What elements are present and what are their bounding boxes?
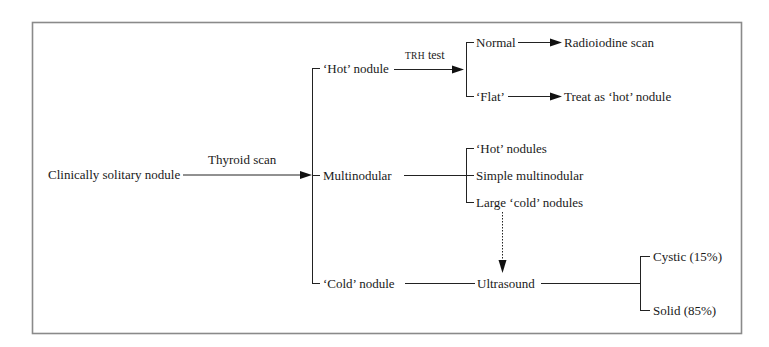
thyroid-nodule-flowchart: Clinically solitary nodule Thyroid scan … [0, 0, 769, 347]
node-cold-nodule: ‘Cold’ nodule [323, 276, 395, 291]
node-hot-nodules: ‘Hot’ nodules [476, 141, 547, 156]
edge-label-thyroid-scan: Thyroid scan [208, 152, 277, 167]
edge-label-trh-test: TRH test [405, 48, 445, 62]
node-treat-as-hot: Treat as ‘hot’ nodule [564, 89, 671, 104]
node-cystic: Cystic (15%) [653, 249, 722, 264]
node-large-cold-nodules: Large ‘cold’ nodules [476, 195, 583, 210]
node-solid: Solid (85%) [653, 303, 716, 318]
node-radioiodine-scan: Radioiodine scan [564, 35, 654, 50]
node-normal: Normal [476, 35, 516, 50]
node-hot-nodule: ‘Hot’ nodule [323, 61, 389, 76]
node-clinically-solitary-nodule: Clinically solitary nodule [48, 167, 180, 182]
node-simple-multinodular: Simple multinodular [476, 168, 584, 183]
node-flat: ‘Flat’ [476, 89, 505, 104]
node-ultrasound: Ultrasound [477, 276, 535, 291]
node-multinodular: Multinodular [323, 168, 392, 183]
